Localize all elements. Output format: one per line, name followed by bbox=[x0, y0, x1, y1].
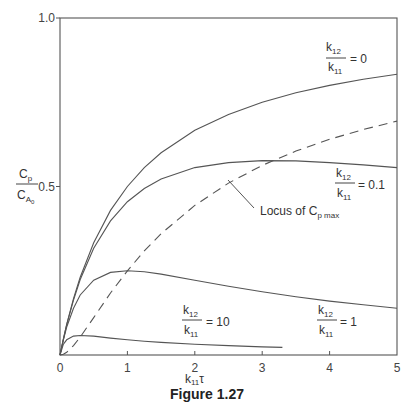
svg-text:k11: k11 bbox=[319, 323, 334, 339]
x-tick-label: 2 bbox=[191, 361, 198, 375]
x-tick-label: 5 bbox=[394, 361, 401, 375]
label-locus: Locus of Cp max bbox=[228, 180, 339, 220]
label-ratio-0: k12 k11 = 0 bbox=[326, 40, 367, 76]
curves bbox=[60, 74, 397, 355]
series-k12-k11-0 bbox=[60, 74, 397, 355]
x-tick-label: 4 bbox=[326, 361, 333, 375]
x-tick-label: 0 bbox=[57, 361, 64, 375]
series-k12-k11-10 bbox=[60, 336, 282, 356]
plot-frame bbox=[60, 18, 397, 355]
svg-text:k12: k12 bbox=[326, 40, 341, 56]
svg-text:Locus of Cp max: Locus of Cp max bbox=[260, 204, 339, 220]
svg-text:k12: k12 bbox=[183, 303, 198, 319]
figure-caption: Figure 1.27 bbox=[0, 386, 414, 402]
svg-text:k11: k11 bbox=[184, 323, 199, 339]
label-ratio-1: k12 k11 = 1 bbox=[317, 303, 357, 339]
svg-text:= 10: = 10 bbox=[206, 315, 230, 329]
svg-text:= 0: = 0 bbox=[350, 52, 367, 66]
y-tick-label: 1.0 bbox=[38, 11, 55, 25]
label-ratio-0.1: k12 k11 = 0.1 bbox=[335, 166, 385, 202]
svg-text:k12: k12 bbox=[336, 166, 351, 182]
svg-text:= 0.1: = 0.1 bbox=[358, 178, 385, 192]
y-tick-label: 0.5 bbox=[38, 180, 55, 194]
svg-text:= 1: = 1 bbox=[340, 315, 357, 329]
x-tick-label: 1 bbox=[124, 361, 131, 375]
chart: 0123450.51.0 Cp CA0 k11τ k12 k11 = 0 k12… bbox=[0, 0, 414, 406]
svg-text:k12: k12 bbox=[318, 303, 333, 319]
label-ratio-10: k12 k11 = 10 bbox=[182, 303, 230, 339]
x-tick-label: 3 bbox=[259, 361, 266, 375]
svg-text:k11: k11 bbox=[328, 60, 343, 76]
y-axis-label: Cp CA0 bbox=[16, 167, 38, 205]
series-k12-k11-1 bbox=[60, 271, 397, 355]
svg-text:k11: k11 bbox=[337, 186, 352, 202]
svg-text:CA0: CA0 bbox=[17, 188, 35, 205]
svg-text:Cp: Cp bbox=[19, 167, 33, 183]
